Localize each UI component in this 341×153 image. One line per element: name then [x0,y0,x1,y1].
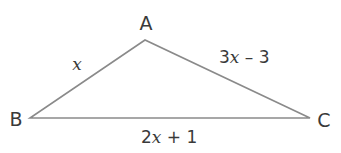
side-label-bc: 2x + 1 [141,127,197,147]
side-ac-prefix: 3 [219,47,230,67]
triangle-diagram: A B C x 3x – 3 2x + 1 [0,0,341,153]
side-label-ac: 3x – 3 [219,47,270,67]
side-bc-prefix: 2 [141,127,152,147]
vertex-label-b: B [9,108,22,130]
side-ac-suffix: – 3 [239,47,269,67]
side-label-ab: x [72,54,82,74]
side-ac-variable: x [230,47,240,67]
side-bc-variable: x [152,127,162,147]
side-bc-suffix: + 1 [161,127,197,147]
vertex-label-c: C [317,109,330,131]
vertex-label-a: A [140,12,153,34]
side-ab-variable: x [72,54,82,74]
